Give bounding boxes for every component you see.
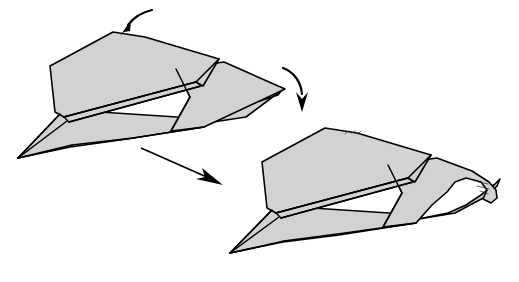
- paper-airplane-fold-diagram: Paper airplane folding step Two-stage or…: [0, 0, 519, 282]
- fold-diagram-canvas: Paper airplane folding step Two-stage or…: [0, 0, 519, 282]
